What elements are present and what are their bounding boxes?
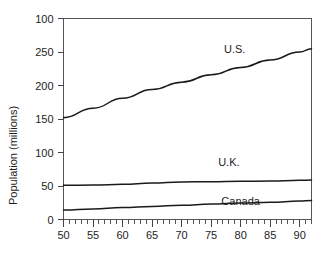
y-tick-label: 250 bbox=[35, 46, 53, 58]
y-axis-title-text: Population (millions) bbox=[7, 106, 19, 205]
y-axis-tick-labels: 050100150200250100 bbox=[35, 13, 53, 226]
x-tick-label: 75 bbox=[205, 229, 217, 241]
x-tick-label: 50 bbox=[57, 229, 69, 241]
series-annotation-uk: U.K. bbox=[218, 156, 239, 168]
y-tick-label: 50 bbox=[41, 180, 53, 192]
x-tick-label: 55 bbox=[87, 229, 99, 241]
y-tick-label: 100 bbox=[35, 13, 53, 25]
y-tick-label: 150 bbox=[35, 113, 53, 125]
x-axis-minor-ticks bbox=[64, 220, 312, 224]
y-axis-title: Population (millions) bbox=[7, 106, 19, 205]
x-tick-label: 70 bbox=[175, 229, 187, 241]
series-annotation-us: U.S. bbox=[224, 43, 245, 55]
x-tick-label: 85 bbox=[264, 229, 276, 241]
x-tick-label: 80 bbox=[235, 229, 247, 241]
series-annotation-canada: Canada bbox=[221, 195, 260, 207]
y-tick-label: 0 bbox=[47, 214, 53, 226]
chart-figure: 505560657075808590 050100150200250100 U.… bbox=[0, 0, 332, 253]
series-lines bbox=[64, 49, 312, 210]
plot-frame bbox=[64, 19, 312, 220]
series-line-canada bbox=[64, 201, 312, 211]
y-tick-label: 100 bbox=[35, 147, 53, 159]
y-tick-label: 200 bbox=[35, 80, 53, 92]
x-tick-label: 60 bbox=[116, 229, 128, 241]
x-tick-label: 90 bbox=[294, 229, 306, 241]
x-tick-label: 65 bbox=[146, 229, 158, 241]
x-axis-tick-labels: 505560657075808590 bbox=[57, 229, 305, 241]
population-line-chart: 505560657075808590 050100150200250100 U.… bbox=[0, 0, 332, 253]
series-line-uk bbox=[64, 180, 312, 185]
series-line-us bbox=[64, 49, 312, 118]
y-axis-major-ticks bbox=[58, 19, 64, 220]
